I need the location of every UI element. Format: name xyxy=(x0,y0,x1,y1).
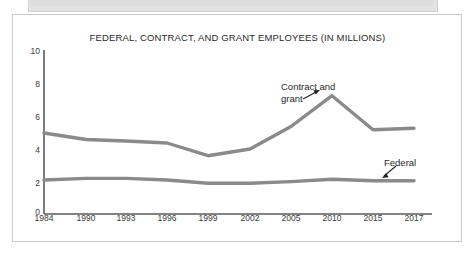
x-tick-label: 1996 xyxy=(147,213,187,223)
x-tick-label: 1990 xyxy=(66,213,106,223)
axis-lines xyxy=(44,50,432,214)
series-federal xyxy=(44,178,414,183)
y-tick-label: 6 xyxy=(18,112,40,122)
x-tick-label: 2015 xyxy=(353,213,393,223)
y-tick-label: 8 xyxy=(18,79,40,89)
chart-screenshot: FEDERAL, CONTRACT, AND GRANT EMPLOYEES (… xyxy=(0,0,475,254)
x-tick-label: 2010 xyxy=(312,213,352,223)
federal-label: Federal xyxy=(384,157,416,169)
y-tick-label: 10 xyxy=(18,46,40,56)
y-tick-label: 4 xyxy=(18,145,40,155)
x-tick-label: 1984 xyxy=(24,213,64,223)
x-tick-label: 1993 xyxy=(106,213,146,223)
series-contract-and-grant xyxy=(44,96,414,156)
y-tick-label: 2 xyxy=(18,178,40,188)
x-tick-label: 2017 xyxy=(394,213,434,223)
x-tick-label: 2002 xyxy=(230,213,270,223)
x-tick-label: 1999 xyxy=(188,213,228,223)
x-tick-label: 2005 xyxy=(271,213,311,223)
contract-and-grant-label: Contract and grant xyxy=(281,81,335,104)
